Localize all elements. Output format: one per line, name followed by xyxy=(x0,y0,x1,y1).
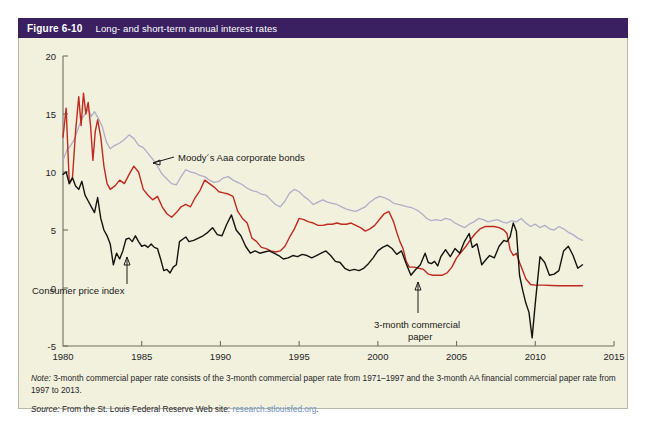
y-tick-label: 10 xyxy=(45,167,56,178)
figure-title: Long- and short-term annual interest rat… xyxy=(96,23,278,34)
cp-annotation-label-line1: 3-month commercial xyxy=(374,319,460,330)
figure-panel: -505101520198019851990199520002005201020… xyxy=(18,38,628,409)
y-tick-label: 20 xyxy=(45,51,56,62)
note-label: Note: xyxy=(31,373,51,383)
figure-container: Figure 6-10 Long- and short-term annual … xyxy=(18,18,628,410)
chart-axes xyxy=(63,56,614,346)
x-tick-label: 1980 xyxy=(52,351,73,362)
series-line xyxy=(63,172,583,338)
source-text: From the St. Louis Federal Reserve Web s… xyxy=(60,404,233,414)
y-tick-label: 15 xyxy=(45,109,56,120)
x-tick-label: 2000 xyxy=(367,351,388,362)
series-line xyxy=(63,93,583,286)
annotation-cpi: Consumer price index xyxy=(32,257,130,296)
y-tick-label: -5 xyxy=(48,341,56,352)
annotation-moodys: Moody´s Aaa corporate bonds xyxy=(153,152,305,165)
cp-annotation-label-line2: paper xyxy=(408,331,432,342)
x-tick-label: 2010 xyxy=(525,351,546,362)
x-tick-label: 1985 xyxy=(131,351,152,362)
moodys-annotation-label: Moody´s Aaa corporate bonds xyxy=(178,152,305,163)
note-text: 3-month commercial paper rate consists o… xyxy=(31,373,616,395)
figure-header-bar: Figure 6-10 Long- and short-term annual … xyxy=(18,18,628,38)
source-url-link[interactable]: research.stlouisfed.org xyxy=(232,404,316,414)
figure-note: Note: 3-month commercial paper rate cons… xyxy=(31,372,617,396)
figure-source: Source: From the St. Louis Federal Reser… xyxy=(31,404,319,414)
y-tick-label: 5 xyxy=(51,225,56,236)
source-end: . xyxy=(316,404,318,414)
chart-series-lines xyxy=(63,93,583,338)
x-tick-label: 1995 xyxy=(289,351,310,362)
figure-number: Figure 6-10 xyxy=(27,23,83,34)
axis-lines xyxy=(63,56,614,346)
series-line xyxy=(63,109,583,240)
x-tick-label: 1990 xyxy=(210,351,231,362)
x-tick-label: 2005 xyxy=(446,351,467,362)
x-tick-label: 2015 xyxy=(603,351,624,362)
source-label: Source: xyxy=(31,404,60,414)
chart-tick-labels: -505101520198019851990199520002005201020… xyxy=(45,51,624,363)
annotation-commercial-paper: 3-month commercial paper xyxy=(374,282,460,342)
cpi-annotation-label: Consumer price index xyxy=(32,285,125,296)
chart-plot-area: -505101520198019851990199520002005201020… xyxy=(19,38,627,368)
line-chart-svg: -505101520198019851990199520002005201020… xyxy=(19,38,627,368)
